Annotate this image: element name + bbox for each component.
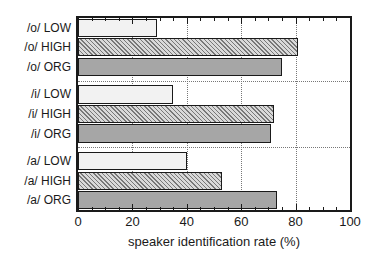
category-label-o-org: /o/ ORG (0, 61, 71, 73)
x-tick-label-80: 80 (288, 215, 302, 228)
tick-bottom-5 (92, 207, 93, 210)
bar-a-low (78, 152, 187, 170)
tick-bottom-70 (268, 207, 269, 210)
tick-bottom-95 (336, 207, 337, 210)
tick-top-90 (323, 18, 324, 21)
tick-top-45 (200, 18, 201, 21)
tick-top-70 (268, 18, 269, 21)
tick-top-65 (255, 18, 256, 21)
tick-top-85 (309, 18, 310, 21)
tick-top-95 (336, 18, 337, 21)
tick-top-55 (228, 18, 229, 21)
bar-a-high (78, 172, 222, 190)
bar-o-high (78, 38, 298, 56)
group-separator-2 (78, 147, 350, 148)
tick-bottom-45 (200, 207, 201, 210)
tick-bottom-90 (323, 207, 324, 210)
category-label-a-org: /a/ ORG (0, 194, 71, 206)
tick-bottom-55 (228, 207, 229, 210)
tick-top-75 (282, 18, 283, 21)
tick-top-35 (173, 18, 174, 21)
x-tick-label-0: 0 (74, 215, 81, 228)
x-tick-label-100: 100 (339, 215, 361, 228)
tick-top-5 (92, 18, 93, 21)
tick-bottom-0 (78, 204, 79, 210)
category-label-i-high: /i/ HIGH (0, 108, 71, 120)
x-tick-label-40: 40 (180, 215, 194, 228)
tick-bottom-35 (173, 207, 174, 210)
tick-top-60 (241, 18, 242, 24)
tick-bottom-75 (282, 207, 283, 210)
tick-bottom-40 (187, 204, 188, 210)
category-label-o-low: /o/ LOW (0, 22, 71, 34)
plot-area (76, 16, 352, 212)
tick-top-20 (132, 18, 133, 24)
plot-inner (78, 18, 350, 210)
tick-bottom-15 (119, 207, 120, 210)
tick-bottom-10 (105, 207, 106, 210)
tick-top-15 (119, 18, 120, 21)
bar-i-low (78, 85, 173, 103)
category-label-i-low: /i/ LOW (0, 88, 71, 100)
bar-i-high (78, 105, 274, 123)
x-tick-label-60: 60 (234, 215, 248, 228)
bar-a-org (78, 191, 277, 209)
tick-top-30 (160, 18, 161, 21)
category-label-i-org: /i/ ORG (0, 128, 71, 140)
category-label-o-high: /o/ HIGH (0, 41, 71, 53)
tick-bottom-80 (296, 204, 297, 210)
tick-top-25 (146, 18, 147, 21)
x-tick-label-20: 20 (125, 215, 139, 228)
tick-top-100 (350, 18, 351, 24)
tick-top-80 (296, 18, 297, 24)
tick-bottom-60 (241, 204, 242, 210)
bar-o-org (78, 58, 282, 76)
bar-o-low (78, 19, 157, 37)
tick-top-10 (105, 18, 106, 21)
tick-top-50 (214, 18, 215, 21)
category-label-a-high: /a/ HIGH (0, 175, 71, 187)
tick-bottom-50 (214, 207, 215, 210)
tick-bottom-20 (132, 204, 133, 210)
x-axis-title: speaker identification rate (%) (76, 235, 352, 248)
group-separator-1 (78, 81, 350, 82)
tick-bottom-85 (309, 207, 310, 210)
tick-top-0 (78, 18, 79, 24)
category-label-a-low: /a/ LOW (0, 155, 71, 167)
bar-i-org (78, 124, 271, 142)
tick-bottom-65 (255, 207, 256, 210)
tick-top-40 (187, 18, 188, 24)
tick-bottom-30 (160, 207, 161, 210)
tick-bottom-25 (146, 207, 147, 210)
tick-bottom-100 (350, 204, 351, 210)
bar-chart-figure: /o/ LOW/o/ HIGH/o/ ORG/i/ LOW/i/ HIGH/i/… (0, 0, 385, 263)
